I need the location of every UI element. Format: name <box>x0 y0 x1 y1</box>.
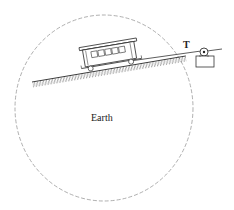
earth-label: Earth <box>91 112 113 123</box>
cable-continuation <box>207 49 222 51</box>
tension-label: T <box>183 39 190 50</box>
earth-circle <box>15 15 193 201</box>
diagram-canvas: T Earth <box>0 0 234 210</box>
pulley <box>196 48 214 67</box>
pulley-block <box>196 56 214 67</box>
